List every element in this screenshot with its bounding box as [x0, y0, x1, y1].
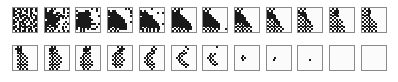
- filled-cell: [212, 55, 214, 57]
- filled-cell: [76, 28, 78, 30]
- filled-cell: [185, 52, 187, 54]
- filled-cell: [35, 19, 37, 21]
- frame-16: [107, 45, 133, 71]
- filled-cell: [364, 30, 366, 32]
- filled-cell: [115, 66, 117, 68]
- filled-cell: [273, 30, 275, 32]
- frame-11: [329, 7, 355, 33]
- filled-cell: [26, 12, 28, 14]
- filled-cell: [162, 23, 164, 25]
- frame-10: [297, 7, 323, 33]
- filled-cell: [151, 57, 153, 59]
- frame-13: [12, 45, 38, 71]
- filled-cell: [209, 30, 211, 32]
- filled-cell: [172, 30, 174, 32]
- filled-cell: [83, 68, 85, 70]
- simulation-frames-figure: [0, 0, 398, 82]
- filled-cell: [341, 21, 343, 23]
- filled-cell: [58, 23, 60, 25]
- filled-cell: [63, 23, 65, 25]
- filled-cell: [123, 48, 125, 50]
- filled-cell: [67, 23, 69, 25]
- frame-5: [139, 7, 165, 33]
- frame-6: [171, 7, 197, 33]
- frame-1: [12, 7, 38, 33]
- filled-cell: [153, 63, 155, 65]
- frame-8: [234, 7, 260, 33]
- frame-19: [202, 45, 228, 71]
- filled-cell: [89, 48, 91, 50]
- filled-cell: [309, 30, 311, 32]
- filled-cell: [91, 61, 93, 63]
- filled-cell: [244, 57, 246, 59]
- filled-cell: [214, 53, 216, 55]
- filled-cell: [216, 30, 218, 32]
- filled-cell: [302, 30, 304, 32]
- filled-cell: [54, 28, 56, 30]
- filled-cell: [19, 30, 21, 32]
- filled-cell: [56, 68, 58, 70]
- filled-cell: [89, 52, 91, 54]
- filled-cell: [80, 30, 82, 32]
- frame-21: [266, 45, 292, 71]
- filled-cell: [121, 53, 123, 55]
- filled-cell: [110, 30, 112, 32]
- filled-cell: [67, 15, 69, 17]
- filled-cell: [26, 21, 28, 23]
- filled-cell: [298, 30, 300, 32]
- filled-cell: [114, 30, 116, 32]
- filled-cell: [311, 28, 313, 30]
- filled-cell: [96, 26, 98, 28]
- filled-cell: [155, 48, 157, 50]
- filled-cell: [26, 57, 28, 59]
- frame-3: [75, 7, 101, 33]
- filled-cell: [65, 17, 67, 19]
- filled-cell: [305, 30, 307, 32]
- filled-cell: [181, 55, 183, 57]
- filled-cell: [125, 28, 127, 30]
- filled-cell: [241, 8, 243, 10]
- filled-cell: [274, 57, 276, 59]
- filled-cell: [91, 64, 93, 66]
- frame-14: [44, 45, 70, 71]
- filled-cell: [183, 53, 185, 55]
- filled-cell: [89, 14, 91, 16]
- filled-cell: [337, 12, 339, 14]
- filled-cell: [151, 53, 153, 55]
- filled-cell: [31, 8, 33, 10]
- filled-cell: [52, 68, 54, 70]
- frame-17: [139, 45, 165, 71]
- filled-cell: [26, 61, 28, 63]
- filled-cell: [368, 30, 370, 32]
- filled-cell: [375, 23, 377, 25]
- filled-cell: [371, 30, 373, 32]
- filled-cell: [176, 30, 178, 32]
- filled-cell: [181, 8, 183, 10]
- filled-cell: [339, 30, 341, 32]
- filled-cell: [35, 25, 37, 27]
- filled-cell: [375, 30, 377, 32]
- filled-cell: [60, 57, 62, 59]
- filled-cell: [273, 8, 275, 10]
- filled-cell: [87, 68, 89, 70]
- filled-cell: [19, 68, 21, 70]
- filled-cell: [35, 30, 37, 32]
- filled-cell: [98, 15, 100, 17]
- filled-cell: [130, 15, 132, 17]
- filled-cell: [65, 26, 67, 28]
- filled-cell: [94, 28, 96, 30]
- filled-cell: [146, 30, 148, 32]
- filled-cell: [142, 30, 144, 32]
- frame-24: [361, 45, 387, 71]
- filled-cell: [269, 30, 271, 32]
- filled-cell: [246, 30, 248, 32]
- filled-cell: [89, 55, 91, 57]
- filled-cell: [304, 8, 306, 10]
- filled-cell: [60, 61, 62, 63]
- filled-cell: [15, 21, 17, 23]
- frame-15: [75, 45, 101, 71]
- frame-4: [107, 7, 133, 33]
- filled-cell: [225, 28, 227, 30]
- filled-cell: [87, 28, 89, 30]
- frame-18: [171, 45, 197, 71]
